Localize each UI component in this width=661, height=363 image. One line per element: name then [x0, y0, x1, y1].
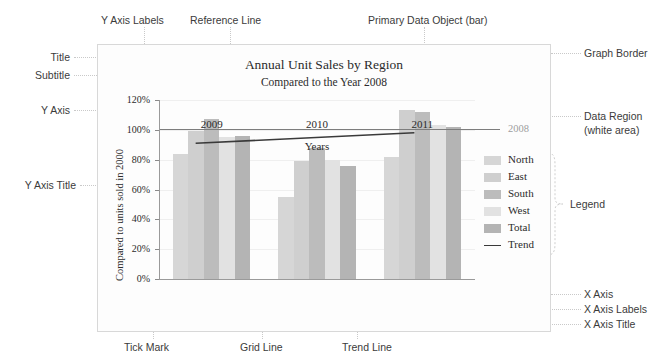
legend-line-icon — [484, 245, 501, 246]
leader-grid-line — [262, 332, 263, 339]
y-axis-tick-label: 100% — [116, 124, 150, 135]
legend-swatch-icon — [484, 224, 501, 233]
annotation-title: Title — [0, 51, 70, 64]
y-axis-tick-label: 20% — [116, 243, 150, 254]
annotation-tick-mark: Tick Mark — [124, 341, 169, 354]
legend-item-north[interactable]: North — [484, 152, 554, 169]
legend-swatch-icon — [484, 190, 501, 199]
y-axis-tick-label: 40% — [116, 213, 150, 224]
leader-tick-mark — [153, 332, 154, 339]
annotation-data-region: Data Region — [584, 110, 642, 123]
x-axis-tick-label: 2010 — [264, 118, 369, 130]
legend-item-label: East — [508, 170, 527, 182]
legend-item-total[interactable]: Total — [484, 220, 554, 237]
chart-title: Annual Unit Sales by Region — [98, 57, 550, 73]
leader-trend-line — [357, 332, 358, 339]
annotation-y-axis: Y Axis — [0, 104, 70, 117]
y-axis-tick-label: 0% — [116, 273, 150, 284]
reference-line-label: 2008 — [508, 123, 529, 134]
x-axis-tick-label: 2009 — [159, 118, 264, 130]
annotation-subtitle: Subtitle — [0, 69, 70, 82]
legend-swatch-icon — [484, 207, 501, 216]
legend-swatch-icon — [484, 173, 501, 182]
legend-swatch-icon — [484, 156, 501, 165]
y-axis-tick-label: 80% — [116, 154, 150, 165]
legend-item-label: Total — [508, 221, 530, 233]
leader-graph-border — [551, 53, 581, 54]
graph-border: Annual Unit Sales by Region Compared to … — [97, 44, 551, 332]
legend-item-label: West — [508, 204, 530, 216]
x-axis-line — [159, 279, 475, 280]
annotation-grid-line: Grid Line — [240, 341, 283, 354]
legend: NorthEastSouthWestTotalTrend — [484, 152, 554, 254]
legend-item-south[interactable]: South — [484, 186, 554, 203]
annotation-legend: Legend — [570, 198, 605, 211]
annotation-primary-data-object: Primary Data Object (bar) — [368, 14, 488, 27]
y-axis-tick-label: 120% — [116, 94, 150, 105]
y-axis-tick-label: 60% — [116, 184, 150, 195]
legend-item-east[interactable]: East — [484, 169, 554, 186]
plot-area: 0%20%40%60%80%100%120% 200920102011 Year… — [159, 100, 475, 279]
legend-item-label: North — [508, 153, 534, 165]
x-axis-title: Years — [159, 140, 475, 152]
legend-item-label: Trend — [508, 238, 534, 250]
annotation-x-axis-title: X Axis Title — [584, 318, 635, 331]
annotation-reference-line: Reference Line — [190, 14, 261, 27]
annotation-y-axis-title: Y Axis Title — [0, 179, 76, 192]
annotation-trend-line: Trend Line — [342, 341, 392, 354]
annotation-x-axis-labels: X Axis Labels — [584, 303, 647, 316]
annotation-y-axis-labels: Y Axis Labels — [101, 14, 164, 27]
legend-item-west[interactable]: West — [484, 203, 554, 220]
annotation-data-region-sub: (white area) — [584, 124, 639, 137]
annotation-x-axis: X Axis — [584, 288, 613, 301]
chart-subtitle: Compared to the Year 2008 — [98, 76, 550, 88]
legend-item-trend[interactable]: Trend — [484, 237, 554, 254]
annotation-graph-border: Graph Border — [584, 47, 648, 60]
leader-x-axis — [551, 294, 581, 295]
legend-item-label: South — [508, 187, 534, 199]
x-axis-tick-label: 2011 — [370, 118, 475, 130]
